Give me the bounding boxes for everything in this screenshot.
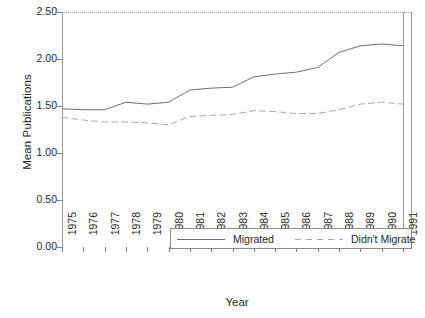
y-axis-tick-label: 0.00 <box>17 240 57 252</box>
series-line-didn-t-migrate <box>62 102 403 125</box>
x-axis-tick-mark <box>83 247 84 252</box>
chart-figure: Mean Publications 0.000.501.001.502.002.… <box>0 0 425 318</box>
legend-label-didnt-migrate: Didn't Migrate <box>345 233 415 245</box>
x-axis-title: Year <box>62 296 412 308</box>
chart-legend: Migrated Didn't Migrate <box>170 228 412 249</box>
x-axis-tick-label: 1978 <box>130 212 142 252</box>
y-axis-tick-label: 2.50 <box>17 5 57 17</box>
legend-entry-didnt-migrate: Didn't Migrate <box>293 229 415 248</box>
x-axis-tick-mark <box>62 247 63 252</box>
y-axis-tick-label: 0.50 <box>17 193 57 205</box>
legend-label-migrated: Migrated <box>227 233 274 245</box>
x-axis-tick-mark <box>147 247 148 252</box>
x-axis-tick-label: 1976 <box>87 212 99 252</box>
x-axis-tick-mark <box>105 247 106 252</box>
series-line-migrated <box>62 44 403 110</box>
x-axis-tick-mark <box>126 247 127 252</box>
y-axis-tick-label: 2.00 <box>17 52 57 64</box>
legend-swatch-dashed-line-icon <box>293 234 345 244</box>
y-axis-tick-label: 1.00 <box>17 146 57 158</box>
x-axis-tick-label: 1979 <box>151 212 163 252</box>
y-axis-title: Mean Publications <box>21 47 33 197</box>
x-axis-tick-label: 1977 <box>109 212 121 252</box>
x-axis-tick-label: 1975 <box>66 212 78 252</box>
legend-swatch-solid-line-icon <box>175 234 227 244</box>
legend-entry-migrated: Migrated <box>175 229 274 248</box>
y-axis-tick-label: 1.50 <box>17 99 57 111</box>
